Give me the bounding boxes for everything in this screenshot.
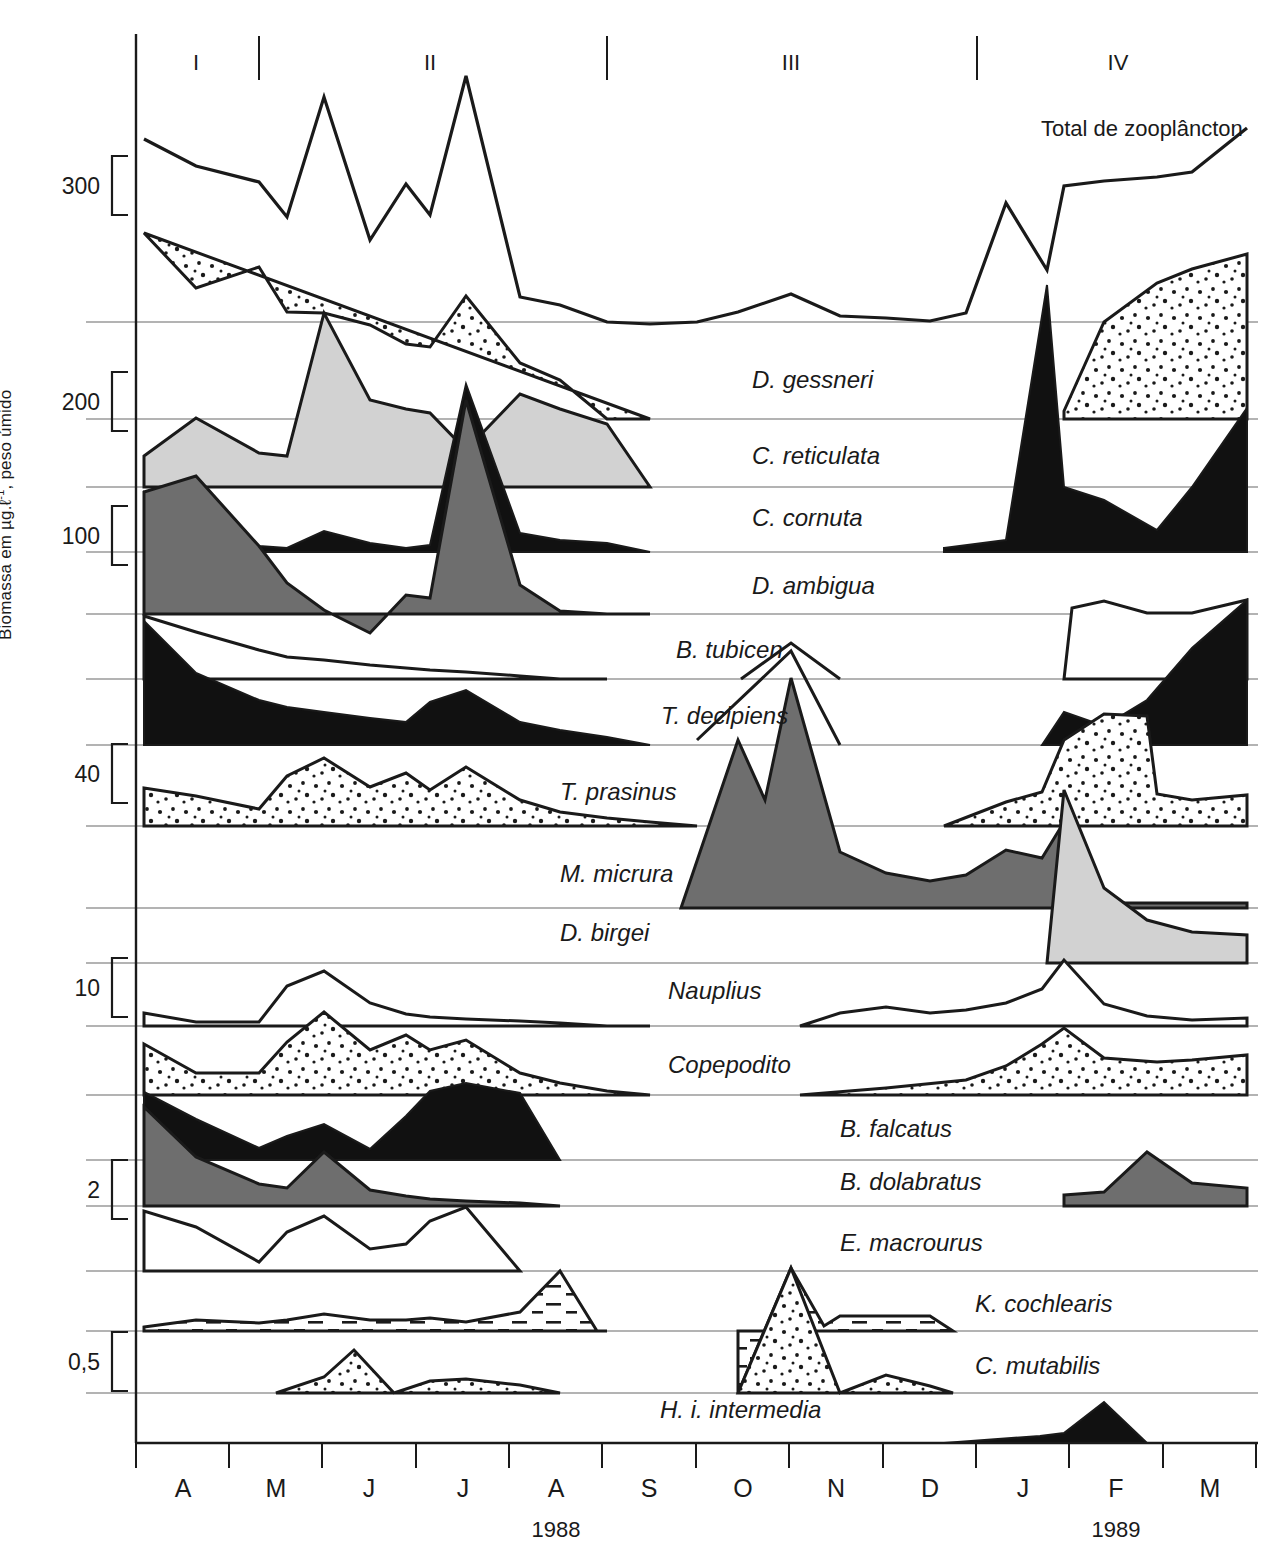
species-label-b-tubicen: B. tubicen (676, 636, 783, 663)
month-label-o: O (733, 1474, 752, 1502)
series-area-d-gessneri (144, 233, 650, 419)
month-label-j3: J (1017, 1474, 1030, 1502)
x-axis-ticks (136, 1443, 1256, 1468)
month-label-m1: M (266, 1474, 287, 1502)
species-label-t-prasinus: T. prasinus (560, 778, 677, 805)
series-area-copepodito-right (800, 1028, 1247, 1095)
y-tick-label: 0,5 (68, 1349, 100, 1375)
month-label-j2: J (457, 1474, 470, 1502)
series-line-total-zooplancton (144, 76, 1247, 324)
y-tick-label: 40 (74, 761, 100, 787)
month-label-s: S (641, 1474, 658, 1502)
species-label-m-micrura: M. micrura (560, 860, 673, 887)
series-area-c-mutabilis (276, 1350, 560, 1393)
y-axis-label-tail: , peso úmido (0, 390, 15, 490)
month-label-a2: A (548, 1474, 565, 1502)
period-label-3: III (782, 50, 800, 75)
year-label-1988: 1988 (532, 1517, 581, 1542)
species-label-b-dolabratus: B. dolabratus (840, 1168, 981, 1195)
species-label-c-reticulata: C. reticulata (752, 442, 880, 469)
y-axis-label-main: Biomassa em µg.ℓ (0, 500, 15, 640)
y-axis-label-exponent: -1 (0, 489, 6, 499)
series-area-h-i-intermedia (944, 1402, 1147, 1443)
month-label-n: N (827, 1474, 845, 1502)
species-label-d-birgei: D. birgei (560, 919, 650, 946)
series-area-nauplius-right (800, 960, 1247, 1026)
series-area-e-macrourus (144, 1207, 520, 1271)
species-label-nauplius: Nauplius (668, 977, 761, 1004)
period-label-1: I (193, 50, 199, 75)
period-label-4: IV (1108, 50, 1129, 75)
total-zooplankton-label: Total de zooplâncton (1041, 116, 1243, 141)
chart-svg: 300 200 100 40 10 2 0,5 I II III IV (0, 0, 1281, 1548)
species-label-d-ambigua: D. ambigua (752, 572, 875, 599)
y-tick-label: 100 (62, 523, 100, 549)
month-label-m2: M (1200, 1474, 1221, 1502)
species-label-copepodito: Copepodito (668, 1051, 791, 1078)
month-label-j1: J (363, 1474, 376, 1502)
zooplankton-biomass-figure: Biomassa em µg.ℓ-1, peso úmido (0, 0, 1281, 1548)
x-axis-year-labels: 1988 1989 (532, 1517, 1141, 1542)
y-tick-label: 200 (62, 389, 100, 415)
series-area-d-gessneri-right (1064, 254, 1247, 419)
month-label-a1: A (175, 1474, 192, 1502)
series-area-nauplius (144, 971, 650, 1026)
species-label-e-macrourus: E. macrourus (840, 1229, 983, 1256)
series-area-k-cochlearis (144, 1271, 607, 1331)
species-label-t-decipiens: T. decipiens (661, 702, 788, 729)
y-tick-label: 10 (74, 975, 100, 1001)
year-label-1989: 1989 (1092, 1517, 1141, 1542)
species-label-h-i-intermedia: H. i. intermedia (660, 1396, 821, 1423)
y-axis-tick-labels: 300 200 100 40 10 2 0,5 (62, 173, 100, 1375)
species-label-d-gessneri: D. gessneri (752, 366, 874, 393)
month-label-f: F (1108, 1474, 1123, 1502)
species-label-b-falcatus: B. falcatus (840, 1115, 952, 1142)
month-label-d: D (921, 1474, 939, 1502)
period-labels: I II III IV (193, 50, 1129, 75)
y-tick-label: 2 (87, 1177, 100, 1203)
species-label-c-mutabilis: C. mutabilis (975, 1352, 1100, 1379)
x-axis-month-labels: A M J J A S O N D J F M (175, 1474, 1221, 1502)
y-axis-label: Biomassa em µg.ℓ-1, peso úmido (0, 340, 16, 640)
species-label-c-cornuta: C. cornuta (752, 504, 863, 531)
period-label-2: II (424, 50, 436, 75)
y-tick-label: 300 (62, 173, 100, 199)
species-label-k-cochlearis: K. cochlearis (975, 1290, 1112, 1317)
period-separators (259, 36, 977, 80)
